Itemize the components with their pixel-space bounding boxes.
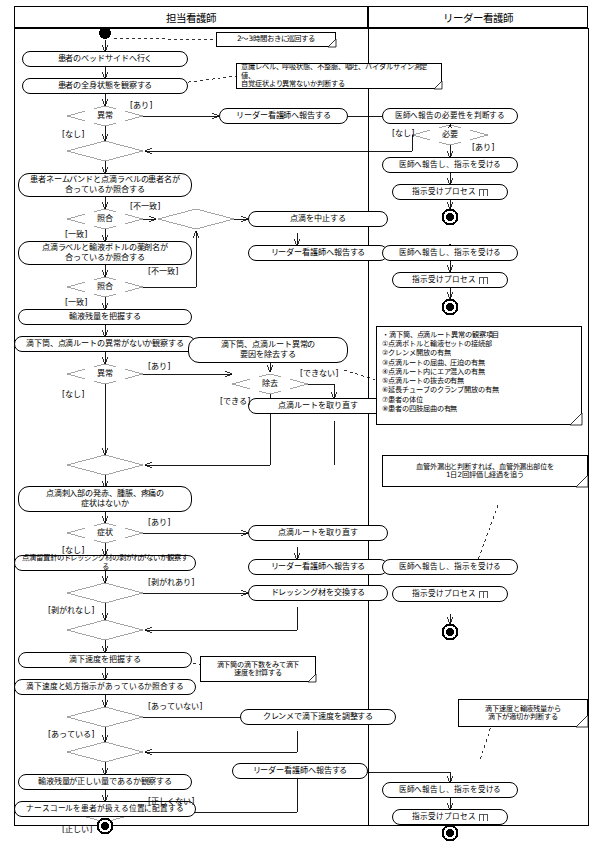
note-corner-layer (0, 0, 602, 854)
activity-diagram-canvas: 担当看護師 リーダー看護師 (0, 0, 602, 854)
